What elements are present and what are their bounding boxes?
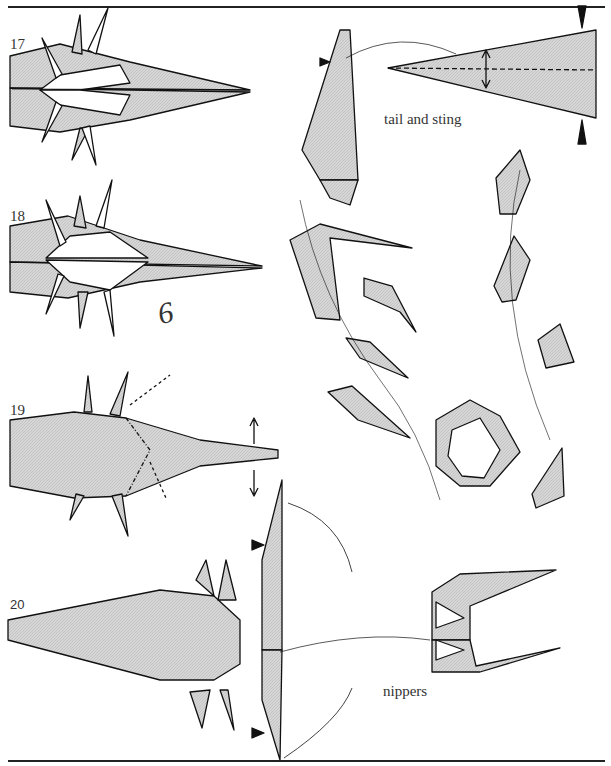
diagram-drawings [0, 0, 611, 766]
nippers-model [432, 570, 560, 672]
step-17-model [10, 8, 250, 165]
step-19-model [10, 372, 278, 536]
tail-wedge [346, 6, 596, 144]
tail-sequence [290, 150, 574, 508]
step-20-model [8, 480, 430, 760]
step-18-model [10, 180, 262, 336]
